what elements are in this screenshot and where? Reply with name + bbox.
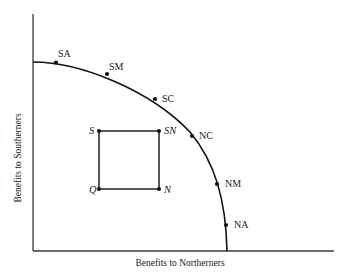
status-quo-square [99, 131, 159, 189]
label-sm: SM [109, 61, 124, 72]
label-s: S [89, 125, 95, 136]
label-nm: NM [225, 178, 241, 189]
point-na-dot [224, 223, 228, 227]
label-n: N [163, 184, 172, 195]
point-s-dot [97, 129, 101, 133]
point-sm-dot [105, 72, 109, 76]
possibility-frontier-curve [33, 62, 227, 251]
point-sc-dot [153, 97, 157, 101]
point-n-dot [157, 187, 161, 191]
y-axis-label: Benefits to Southerners [13, 113, 23, 202]
label-sc: SC [162, 93, 175, 104]
point-nm-dot [215, 182, 219, 186]
point-q-dot [97, 187, 101, 191]
label-sn: SN [164, 125, 177, 136]
point-sa-dot [54, 60, 58, 64]
point-sn-dot [157, 129, 161, 133]
benefits-diagram: SA SM SC NC NM NA S SN Q N Benefits to N… [0, 0, 354, 275]
label-q: Q [89, 184, 97, 195]
x-axis-label: Benefits to Northerners [135, 258, 224, 268]
point-nc-dot [190, 134, 194, 138]
label-na: NA [234, 219, 249, 230]
label-nc: NC [199, 130, 213, 141]
label-sa: SA [58, 48, 72, 59]
